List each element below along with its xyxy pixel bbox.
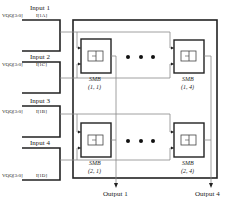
- smb-index-2-4: (2, 4): [181, 168, 194, 175]
- smb-block-1-1: [81, 39, 111, 73]
- smb-index-2-1: (2, 1): [88, 168, 101, 175]
- input-label-2: Input 2: [30, 53, 51, 61]
- output-label-4: Output 4: [195, 190, 220, 198]
- output-wires: [111, 56, 211, 185]
- ellipsis-dots: [126, 55, 155, 143]
- input-bus-2: VQQ[3:0]: [2, 62, 23, 67]
- smb-block-1-4: [174, 40, 204, 73]
- input-label-4: Input 4: [30, 139, 51, 147]
- smb-name-2-4: SMB: [182, 160, 194, 166]
- input-tag-1: I[1A]: [36, 13, 47, 18]
- output-label-1: Output 1: [103, 190, 128, 198]
- input-label-3: Input 3: [30, 97, 51, 105]
- smb-name-1-1: SMB: [89, 76, 101, 82]
- smb-name-1-4: SMB: [182, 76, 194, 82]
- smb-index-1-4: (1, 4): [181, 84, 194, 91]
- outer-box: [73, 20, 217, 178]
- smb-name-2-1: SMB: [89, 160, 101, 166]
- input-tag-3: I[1B]: [36, 109, 47, 114]
- input-label-1: Input 1: [30, 4, 51, 12]
- smb-block-2-4: [174, 123, 204, 157]
- input-tag-4: I[1D]: [36, 173, 47, 178]
- input-bracket-1: [22, 20, 160, 51]
- input-bus-1: VQQ[3:0]: [2, 13, 23, 18]
- input-bus-4: VQQ[3:0]: [2, 173, 23, 178]
- output-arrowheads: [114, 183, 213, 188]
- smb-block-2-1: [81, 123, 111, 157]
- input-arrowheads: [78, 47, 174, 150]
- input-bus-3: VQQ[3:0]: [2, 109, 23, 114]
- diagram-canvas: Input 1 VQQ[3:0] I[1A] Input 2 VQQ[3:0] …: [0, 0, 233, 206]
- input-tag-2: I[1C]: [36, 62, 47, 67]
- smb-index-1-1: (1, 1): [88, 84, 101, 91]
